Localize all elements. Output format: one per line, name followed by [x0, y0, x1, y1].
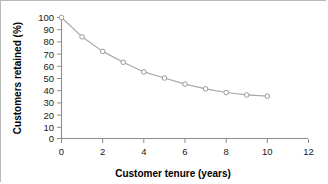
y-tick-label: 100	[38, 12, 54, 23]
retention-line-chart: 100 90 80 70 60 50 40 30 20 10 0 0 2 4	[1, 1, 327, 183]
x-tick-label: 2	[100, 146, 105, 157]
data-point	[121, 60, 126, 65]
x-tick-label: 0	[59, 146, 64, 157]
y-axis-title: Customers retained (%)	[12, 22, 23, 134]
chart-figure: 100 90 80 70 60 50 40 30 20 10 0 0 2 4	[0, 0, 326, 182]
data-point	[224, 90, 229, 95]
data-point	[203, 87, 208, 92]
data-point	[80, 35, 85, 40]
y-tick-label: 90	[43, 24, 54, 35]
y-tick-label: 50	[43, 73, 54, 84]
data-point	[100, 49, 105, 54]
data-point	[244, 93, 249, 98]
y-tick-label: 40	[43, 85, 54, 96]
y-tick-label: 20	[43, 110, 54, 121]
data-point	[265, 94, 270, 99]
y-tick-label: 60	[43, 61, 54, 72]
y-tick-label: 30	[43, 97, 54, 108]
x-tick-label: 4	[141, 146, 146, 157]
x-axis-title: Customer tenure (years)	[115, 168, 231, 179]
x-tick-label: 12	[303, 146, 314, 157]
y-tick-label: 10	[43, 122, 54, 133]
x-tick-label: 6	[182, 146, 187, 157]
data-point	[162, 76, 167, 81]
y-tick-label: 0	[49, 133, 54, 144]
x-tick-label: 10	[262, 146, 273, 157]
data-point	[142, 70, 147, 75]
y-tick-label: 70	[43, 49, 54, 60]
data-point	[183, 82, 188, 87]
data-point	[59, 15, 64, 20]
y-tick-label: 80	[43, 36, 54, 47]
x-tick-label: 8	[224, 146, 229, 157]
